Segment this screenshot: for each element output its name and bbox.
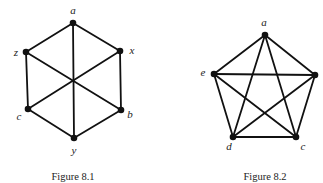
edge-e-d: [214, 74, 233, 137]
vertex-label-a: a: [70, 4, 76, 16]
graph-diagram: azxcby Figure 8.1 aedc Figure 8.2: [0, 0, 323, 183]
vertex-c: [293, 134, 300, 141]
figure-8-2-graph: aedc Figure 8.2: [201, 16, 319, 182]
vertex-label-z: z: [13, 46, 19, 58]
vertex-label-y: y: [71, 144, 77, 156]
edge-b-y: [74, 110, 121, 138]
edge-e-b: [214, 74, 315, 75]
edge-z-c: [26, 52, 28, 109]
vertex-b: [312, 72, 319, 79]
vertex-label-a: a: [261, 16, 267, 28]
figure-8-1-caption: Figure 8.1: [51, 171, 94, 182]
edge-b-c: [296, 75, 315, 137]
edge-x-b: [120, 51, 121, 110]
vertex-label-b: b: [127, 108, 133, 120]
edge-a-c: [265, 35, 296, 137]
vertex-c: [25, 106, 32, 113]
vertex-x: [117, 48, 124, 55]
vertex-label-c: c: [301, 140, 306, 152]
figure-8-2-caption: Figure 8.2: [243, 171, 286, 182]
figure-8-2-edges: [214, 35, 315, 137]
vertex-label-x: x: [129, 44, 135, 56]
edge-c-y: [28, 109, 74, 138]
edge-a-d: [233, 35, 265, 137]
vertex-e: [211, 71, 218, 78]
edge-e-c: [214, 74, 296, 137]
figure-8-2-vertices: [211, 32, 319, 141]
vertex-y: [71, 135, 78, 142]
edge-a-e: [214, 35, 265, 74]
vertex-a: [262, 32, 269, 39]
edge-a-x: [73, 23, 120, 51]
edge-a-b: [265, 35, 315, 75]
vertex-label-c: c: [17, 110, 22, 122]
vertex-b: [118, 107, 125, 114]
edge-a-z: [26, 23, 73, 52]
vertex-label-e: e: [201, 66, 206, 78]
edge-b-d: [233, 75, 315, 137]
figure-8-1-graph: azxcby Figure 8.1: [13, 4, 135, 182]
vertex-a: [70, 20, 77, 27]
figure-8-1-edges: [26, 23, 121, 138]
vertex-z: [23, 49, 30, 56]
vertex-label-d: d: [226, 140, 232, 152]
